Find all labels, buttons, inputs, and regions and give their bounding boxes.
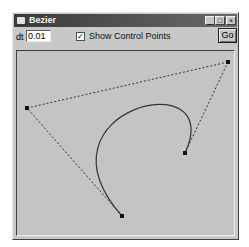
control-polygon [27, 62, 228, 216]
bezier-curve [96, 104, 191, 216]
control-point-handle[interactable] [120, 214, 124, 218]
control-points[interactable] [25, 60, 230, 218]
control-point-handle[interactable] [183, 151, 187, 155]
control-point-handle[interactable] [226, 60, 230, 64]
bezier-drawing [0, 0, 249, 247]
control-point-handle[interactable] [25, 106, 29, 110]
